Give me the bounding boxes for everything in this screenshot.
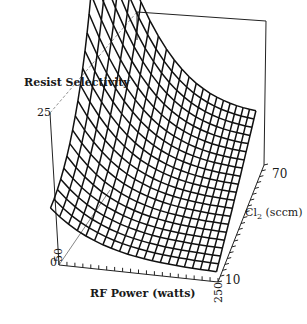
back-right-vertical [264,21,266,165]
x-tick-50: 50 [52,248,65,262]
surface-plot [0,0,307,324]
base-left-edge [59,190,110,265]
back-top-edge [137,12,266,21]
y-axis-label-main: Cl [245,206,257,219]
mesh-line-cl2 [60,0,111,217]
x-axis-label: RF Power (watts) [90,287,196,300]
mesh-line-rf [99,0,256,111]
y-tick-10: 10 [225,273,240,287]
x-tick-250: 250 [212,282,225,303]
y-axis-label-unit: (sccm) [262,206,302,219]
surface-mesh [51,0,256,272]
cl2-tick [264,164,268,165]
y-tick-70: 70 [272,167,287,181]
z-axis-label: Resist Selectivity [24,75,130,90]
z-tick-25: 25 [37,106,51,119]
y-axis-label: Cl2 (sccm) [245,206,303,221]
